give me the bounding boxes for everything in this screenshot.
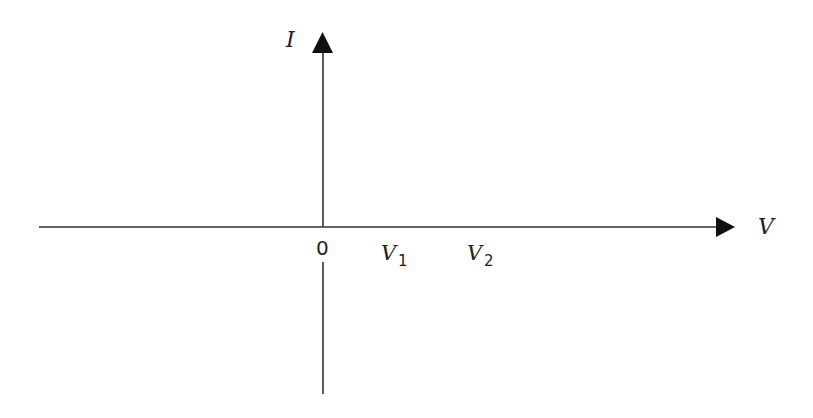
tick-label-v2: V 2 — [467, 241, 494, 270]
axes-svg: I V 0 V 1 V 2 — [0, 0, 813, 418]
iv-axes-diagram: I V 0 V 1 V 2 — [0, 0, 813, 418]
y-axis-arrowhead-icon — [312, 32, 333, 53]
tick-label-v1: V 1 — [381, 241, 408, 270]
tick-label-v1-sub: 1 — [398, 252, 408, 270]
tick-label-v1-main: V — [381, 241, 398, 265]
y-axis-label: I — [285, 27, 296, 52]
origin-label: 0 — [316, 236, 329, 260]
tick-label-v2-main: V — [467, 241, 484, 265]
x-axis-arrowhead-icon — [716, 217, 735, 237]
tick-label-v2-sub: 2 — [484, 252, 494, 270]
x-axis-label: V — [758, 214, 776, 239]
